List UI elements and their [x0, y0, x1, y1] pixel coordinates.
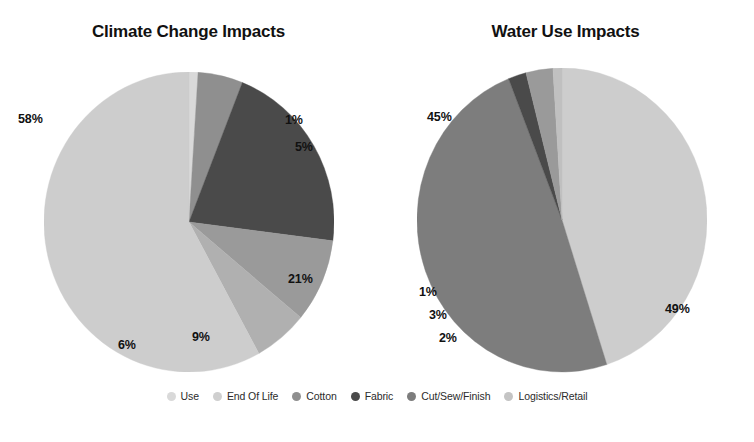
legend-label-end-of-life: End Of Life [227, 390, 278, 402]
legend-swatch-cut-sew-finish-icon [407, 392, 416, 401]
pie-climate-change-value-label: 6% [118, 338, 136, 352]
legend-label-logistics-retail: Logistics/Retail [518, 390, 587, 402]
chart-panel-water-use: Water Use Impacts 45%49%1%3%2% [377, 0, 754, 385]
legend-item-end-of-life[interactable]: End Of Life [213, 390, 278, 402]
chart-panel-climate-change: Climate Change Impacts 58%1%5%21%9%6% [0, 0, 377, 385]
legend-label-use: Use [181, 390, 199, 402]
legend-label-cut-sew-finish: Cut/Sew/Finish [421, 390, 490, 402]
pie-water-use-value-label: 1% [419, 285, 437, 299]
pie-climate-change-value-label: 58% [18, 112, 43, 126]
pie-water-use-value-label: 3% [429, 308, 447, 322]
legend-swatch-fabric-icon [351, 392, 360, 401]
pie-climate-change-value-label: 1% [285, 113, 303, 127]
legend-label-fabric: Fabric [365, 390, 394, 402]
legend-swatch-use-icon [167, 392, 176, 401]
pie-water-use-value-label: 49% [665, 302, 690, 316]
legend-item-fabric[interactable]: Fabric [351, 390, 394, 402]
legend-swatch-end-of-life-icon [213, 392, 222, 401]
chart-legend: UseEnd Of LifeCottonFabricCut/Sew/Finish… [0, 390, 754, 402]
legend-item-use[interactable]: Use [167, 390, 199, 402]
pie-chart-figure: Climate Change Impacts 58%1%5%21%9%6% Wa… [0, 0, 754, 442]
pie-svg-water-use [417, 68, 707, 373]
legend-item-cotton[interactable]: Cotton [292, 390, 336, 402]
pie-water-use-value-label: 45% [427, 110, 452, 124]
chart-title-water-use: Water Use Impacts [377, 22, 754, 42]
legend-label-cotton: Cotton [306, 390, 336, 402]
pie-water-use-value-label: 2% [439, 331, 457, 345]
pie-climate-change-value-label: 21% [288, 272, 313, 286]
legend-swatch-cotton-icon [292, 392, 301, 401]
legend-item-cut-sew-finish[interactable]: Cut/Sew/Finish [407, 390, 490, 402]
legend-item-logistics-retail[interactable]: Logistics/Retail [504, 390, 587, 402]
pie-climate-change-value-label: 9% [192, 330, 210, 344]
legend-swatch-logistics-retail-icon [504, 392, 513, 401]
pie-water-use [417, 68, 707, 373]
pie-climate-change-value-label: 5% [295, 140, 313, 154]
chart-title-climate-change: Climate Change Impacts [0, 22, 377, 42]
